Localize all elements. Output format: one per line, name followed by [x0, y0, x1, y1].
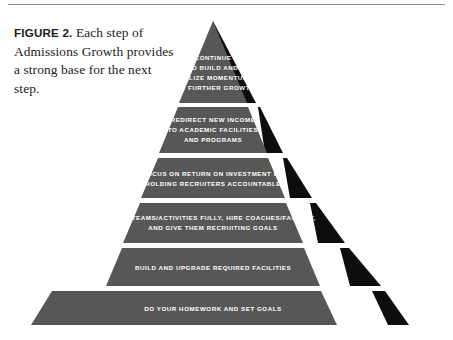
- pyramid-shadow-tier-3: [283, 158, 312, 198]
- pyramid-shadow-tier-6: [372, 291, 409, 325]
- pyramid-shadow-tier-4: [310, 203, 345, 243]
- pyramid-tier-label-2-line-2: TO ACADEMIC FACILITIES: [168, 126, 258, 133]
- pyramid-shadow-tier-5: [340, 248, 381, 286]
- pyramid-tier-face-3[interactable]: [141, 158, 285, 198]
- pyramid-tier-label-2-line-1: REDIRECT NEW INCOME: [171, 116, 256, 123]
- pyramid-tier-label-2-line-3: AND PROGRAMS: [184, 136, 242, 143]
- pyramid-tier-label-1-line-3: UTILIZE MOMENTUM: [177, 74, 248, 81]
- pyramid-svg: CONTINUE TO BUILD AND UTILIZE MOMENTUM F…: [0, 0, 453, 340]
- pyramid-tier-label-4-line-2: AND GIVE THEM RECRUITING GOALS: [148, 224, 278, 231]
- pyramid-diagram: CONTINUE TO BUILD AND UTILIZE MOMENTUM F…: [0, 0, 453, 340]
- pyramid-tier-label-6: DO YOUR HOMEWORK AND SET GOALS: [144, 305, 282, 312]
- pyramid-tier-label-1-line-1: CONTINUE: [195, 54, 232, 61]
- pyramid-tier-label-5: BUILD AND UPGRADE REQUIRED FACILITIES: [135, 264, 291, 271]
- pyramid-tier-label-4-line-1: FUND TEAMS/ACTIVITIES FULLY, HIRE COACHE…: [110, 214, 316, 221]
- pyramid-tier-face-4[interactable]: [123, 203, 303, 243]
- pyramid-tier-label-1-line-2: TO BUILD AND: [188, 64, 239, 71]
- figure-page: FIGURE 2. Each step of Admissions Growth…: [0, 0, 453, 340]
- pyramid-tier-label-1-line-4: FOR FURTHER GROWTH: [171, 84, 255, 91]
- pyramid-tier-label-6-line-1: DO YOUR HOMEWORK AND SET GOALS: [144, 305, 282, 312]
- pyramid-tier-label-3-line-2: HOLDING RECRUITERS ACCOUNTABLE: [145, 180, 281, 187]
- pyramid-tier-label-5-line-1: BUILD AND UPGRADE REQUIRED FACILITIES: [135, 264, 291, 271]
- pyramid-tier-label-3-line-1: FOCUS ON RETURN ON INVESTMENT BY: [143, 170, 284, 177]
